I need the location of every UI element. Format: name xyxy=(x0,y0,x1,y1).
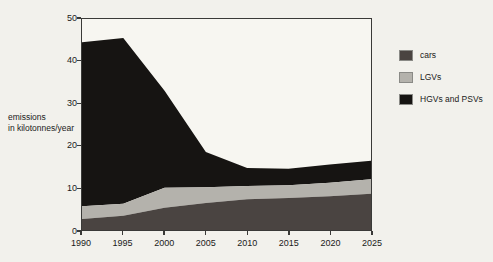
legend-label-lgvs: LGVs xyxy=(420,72,441,82)
legend-swatch-cars xyxy=(399,50,413,61)
x-tick-label: 2010 xyxy=(227,238,267,248)
x-tick-mark xyxy=(247,231,248,235)
x-tick-label: 2000 xyxy=(144,238,184,248)
x-tick-mark xyxy=(330,231,331,235)
legend-label-hgvs-and-psvs: HGVs and PSVs xyxy=(420,94,483,104)
x-axis: 19901995200020052010201520202025 xyxy=(0,0,493,262)
legend-item-hgvs-and-psvs: HGVs and PSVs xyxy=(399,91,489,107)
x-tick-label: 2005 xyxy=(186,238,226,248)
x-tick-mark xyxy=(205,231,206,235)
x-tick-mark xyxy=(80,231,81,235)
x-tick-mark xyxy=(371,231,372,235)
x-tick-label: 1990 xyxy=(61,238,101,248)
legend-label-cars: cars xyxy=(420,50,436,60)
x-tick-label: 2015 xyxy=(269,238,309,248)
x-tick-label: 2025 xyxy=(352,238,392,248)
legend-swatch-lgvs xyxy=(399,72,413,83)
legend-swatch-hgvs-and-psvs xyxy=(399,94,413,105)
x-tick-label: 1995 xyxy=(103,238,143,248)
chart-figure: emissions in kilotonnes/year 01020304050… xyxy=(0,0,493,262)
legend-item-lgvs: LGVs xyxy=(399,69,489,85)
legend-item-cars: cars xyxy=(399,47,489,63)
x-tick-mark xyxy=(122,231,123,235)
x-tick-label: 2020 xyxy=(310,238,350,248)
chart-legend: cars LGVs HGVs and PSVs xyxy=(399,47,489,113)
x-tick-mark xyxy=(288,231,289,235)
x-tick-mark xyxy=(163,231,164,235)
